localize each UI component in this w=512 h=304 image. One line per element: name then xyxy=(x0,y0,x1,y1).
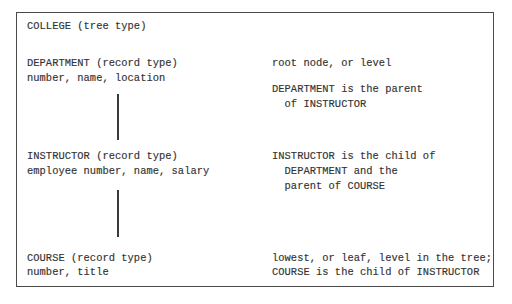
instructor-record-label: INSTRUCTOR (record type) xyxy=(27,150,178,162)
connector-instructor-course xyxy=(117,190,119,237)
instructor-note-3: parent of COURSE xyxy=(272,180,385,192)
course-note-1: lowest, or leaf, level in the tree; xyxy=(272,252,492,264)
connector-department-instructor xyxy=(117,94,119,140)
department-note-parent-cont: of INSTRUCTOR xyxy=(272,98,366,110)
course-note-2: COURSE is the child of INSTRUCTOR xyxy=(272,266,479,278)
course-fields: number, title xyxy=(27,266,109,278)
tree-type-title: COLLEGE (tree type) xyxy=(27,20,146,32)
department-fields: number, name, location xyxy=(27,72,165,84)
instructor-note-1: INSTRUCTOR is the child of xyxy=(272,150,435,162)
department-note-root: root node, or level xyxy=(272,57,391,69)
instructor-fields: employee number, name, salary xyxy=(27,165,209,177)
course-record-label: COURSE (record type) xyxy=(27,252,153,264)
department-note-parent: DEPARTMENT is the parent xyxy=(272,83,423,95)
department-record-label: DEPARTMENT (record type) xyxy=(27,57,178,69)
instructor-note-2: DEPARTMENT and the xyxy=(272,165,398,177)
